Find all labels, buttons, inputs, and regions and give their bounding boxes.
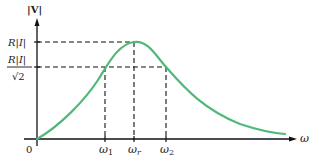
svg-text:ωr: ωr: [128, 143, 142, 157]
response-curve: [37, 42, 285, 139]
resonance-chart: |V| ω 0 R|I| R|I| √2 ω1 ωr ω2: [0, 0, 319, 161]
half-power-label-num: R|I|: [7, 54, 26, 66]
svg-text:ω1: ω1: [99, 143, 113, 157]
x-axis-label: ω: [300, 132, 309, 145]
w1-label: ω1: [99, 143, 113, 157]
wr-label: ωr: [128, 143, 142, 157]
half-power-label-den: √2: [12, 71, 25, 82]
axes: [24, 18, 297, 146]
svg-text:ω2: ω2: [160, 143, 174, 157]
y-axis-label: |V|: [27, 4, 42, 16]
w2-label: ω2: [160, 143, 174, 157]
x-axis-arrow-icon: [289, 137, 297, 142]
peak-label: R|I|: [7, 37, 26, 49]
origin-label: 0: [26, 144, 32, 155]
y-axis-arrow-icon: [35, 18, 40, 26]
